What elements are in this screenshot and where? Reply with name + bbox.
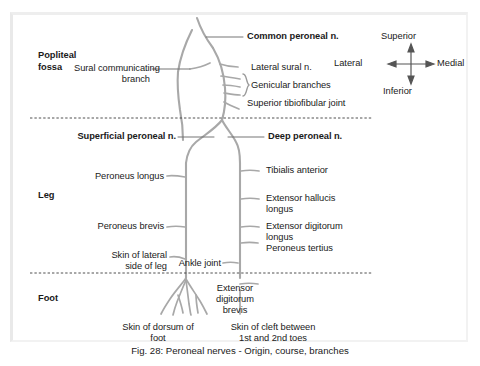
compass-arrow-medial <box>426 61 434 67</box>
region-label-leg: Leg <box>38 190 54 201</box>
superior-tibiofibular-branch <box>224 102 239 109</box>
label-deep-peroneal-nerve: Deep peroneal n. <box>268 131 342 142</box>
peroneus-longus-branch <box>167 176 185 177</box>
region-label-popliteal-fossa-line1: Popliteal <box>38 50 76 61</box>
deep-peroneal-trunk-upper <box>222 120 240 163</box>
label-extensor-hallucis-longus-line1: Extensor hallucis <box>266 193 335 204</box>
label-peroneus-brevis: Peroneus brevis <box>64 221 164 232</box>
compass-arrow-inferior <box>408 76 414 84</box>
label-tibialis-anterior: Tibialis anterior <box>266 165 328 176</box>
compass-label-lateral: Lateral <box>334 58 386 68</box>
dorsal-cutaneous-subbranch <box>178 295 183 313</box>
compass-label-inferior: Inferior <box>383 86 439 96</box>
label-superficial-peroneal-nerve: Superficial peroneal n. <box>38 131 176 142</box>
lateral-descending-branch <box>178 30 192 140</box>
extensor-hallucis-longus-branch <box>241 198 259 199</box>
label-skin-cleft-line2: 1st and 2nd toes <box>214 333 332 344</box>
peroneus-tertius-branch <box>241 242 258 243</box>
lateral-sural-branch <box>220 64 238 67</box>
compass-arrow-lateral <box>388 61 396 67</box>
nerve-trunk-group <box>178 18 240 278</box>
label-extensor-digitorum-longus-line1: Extensor digitorum <box>266 221 343 232</box>
popliteal-branches-group <box>190 63 240 109</box>
peroneus-brevis-branch <box>167 226 185 227</box>
label-genicular-branches: Genicular branches <box>251 80 331 91</box>
label-extensor-digitorum-brevis-line3: brevis <box>196 305 274 316</box>
label-skin-lateral-leg-line2: side of leg <box>64 261 167 272</box>
label-extensor-digitorum-brevis-line1: Extensor <box>196 283 274 294</box>
label-extensor-hallucis-longus-line2: longus <box>266 204 293 215</box>
label-peroneus-longus: Peroneus longus <box>64 171 164 182</box>
label-skin-lateral-leg-line1: Skin of lateral <box>64 250 167 261</box>
leg-branches-group <box>167 170 259 263</box>
label-lateral-sural-nerve: Lateral sural n. <box>251 62 312 73</box>
label-skin-dorsum-foot-line1: Skin of dorsum of <box>108 322 208 333</box>
orientation-compass-arrows <box>388 44 434 84</box>
tibialis-anterior-branch <box>241 170 259 171</box>
compass-arrow-superior <box>408 44 414 52</box>
label-skin-cleft-line1: Skin of cleft between <box>214 322 332 333</box>
label-ankle-joint: Ankle joint <box>163 258 221 269</box>
sural-communicating-branch <box>190 63 210 69</box>
genicular-branch-3 <box>224 93 240 95</box>
label-sural-communicating-line1: Sural communicating <box>74 63 150 74</box>
ankle-joint-branch <box>223 262 238 263</box>
figure-root: Popliteal fossa Leg Foot Common peroneal… <box>0 0 480 366</box>
superficial-peroneal-trunk-upper <box>186 120 222 163</box>
common-peroneal-trunk <box>197 18 213 48</box>
label-peroneus-tertius: Peroneus tertius <box>266 243 333 254</box>
compass-label-medial: Medial <box>437 58 464 68</box>
label-skin-dorsum-foot-line2: foot <box>108 333 208 344</box>
label-common-peroneal-nerve: Common peroneal n. <box>247 31 339 42</box>
compass-label-superior: Superior <box>381 31 441 41</box>
region-label-popliteal-fossa-line2: fossa <box>38 62 62 73</box>
peroneal-trunk-fibular-neck <box>213 48 225 120</box>
figure-caption: Fig. 28: Peroneal nerves - Origin, cours… <box>0 345 480 356</box>
label-extensor-digitorum-longus-line2: longus <box>266 232 293 243</box>
extensor-digitorum-longus-branch <box>241 226 259 227</box>
label-extensor-digitorum-brevis-line2: digitorum <box>196 294 274 305</box>
region-label-foot: Foot <box>38 293 58 304</box>
label-sural-communicating-line2: branch <box>74 74 150 85</box>
genicular-brace <box>243 74 249 96</box>
label-superior-tibiofibular-joint: Superior tibiofibular joint <box>247 98 345 109</box>
